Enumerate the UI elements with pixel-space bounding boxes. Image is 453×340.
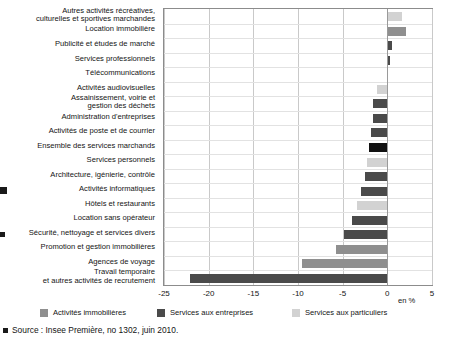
category-label: Agences de voyage [88,258,155,267]
gridline [432,9,433,285]
source-note: Source : Insee Première, no 1302, juin 2… [3,325,178,335]
bar [352,216,387,225]
figure-root: Autres activités récréatives, culturelle… [0,0,453,340]
bar-row [164,227,432,242]
bar [361,187,387,196]
x-tick-label: 5 [430,289,434,298]
legend-swatch [40,309,48,317]
category-label: Travail temporaire et autres activités d… [43,268,155,285]
bar-row [164,53,432,68]
category-label: Promotion et gestion immobilières [41,243,155,252]
x-tick-label: -25 [158,289,170,298]
bar [336,245,387,254]
category-label: Activités informatiques [79,185,155,194]
bar [344,230,387,239]
category-label: Location sans opérateur [74,214,155,223]
category-label: Autres activités récréatives, culturelle… [36,7,155,24]
bar [387,12,401,21]
category-label: Services professionnels [75,55,155,64]
x-tick-label: -20 [203,289,215,298]
bar [357,201,387,210]
x-axis: -25-20-15-10-505 [163,286,433,304]
bar [371,128,387,137]
legend-label: Activités immobilières [53,308,126,317]
bar-row [164,125,432,140]
bar-row [164,154,432,169]
x-axis-unit-label: en % [398,296,415,305]
legend-label: Services aux entreprises [170,308,253,317]
x-tick-label: -10 [292,289,304,298]
bar-row [164,96,432,111]
category-label: Administration d'entreprises [62,113,155,122]
bar-row [164,212,432,227]
legend-item: Services aux particuliers [292,308,387,317]
x-tick-label: 0 [385,289,389,298]
category-label: Assainissement, voirie et gestion des dé… [71,94,155,111]
bar [387,27,406,36]
bar-row [164,38,432,53]
bar-row [164,241,432,256]
legend-item: Activités immobilières [40,308,126,317]
legend-label: Services aux particuliers [305,308,387,317]
legend-swatch [157,309,165,317]
plot-area [163,8,433,286]
bar-series [164,9,432,285]
bar [190,274,387,283]
category-label: Architecture, igénierie, contrôle [50,171,155,180]
bar-row [164,169,432,184]
category-axis-labels: Autres activités récréatives, culturelle… [0,8,160,286]
bar [365,172,387,181]
bullet-icon [3,328,8,333]
category-label: Publicité et études de marché [55,40,155,49]
bar [302,259,388,268]
bar-row [164,256,432,271]
bar-row [164,140,432,155]
bar [377,85,388,94]
x-tick-label: -5 [339,289,346,298]
bar-row [164,9,432,24]
bar [367,158,388,167]
legend-swatch [292,309,300,317]
category-label: Activités audiovisuelles [77,84,155,93]
category-label: Services personnels [87,156,155,165]
zero-axis-line [387,9,388,285]
category-label: Activités de poste et de courrier [49,127,155,136]
source-text: Source : Insee Première, no 1302, juin 2… [12,325,178,335]
legend-item: Services aux entreprises [157,308,253,317]
bar [373,99,387,108]
x-tick-label: -15 [248,289,260,298]
legend: Activités immobilièresServices aux entre… [0,308,453,322]
bar-row [164,82,432,97]
bar-row [164,111,432,126]
bar-row [164,24,432,39]
bar-row [164,198,432,213]
category-label: Ensemble des services marchands [37,142,155,151]
bar-row [164,67,432,82]
bar [373,114,387,123]
category-label: Sécurité, nettoyage et services divers [29,229,155,238]
category-label: Hôtels et restaurants [85,200,155,209]
category-label: Location immobilière [85,25,155,34]
bar-row [164,270,432,285]
category-label: Télécommunications [85,69,155,78]
bar-row [164,183,432,198]
bar [369,143,387,152]
